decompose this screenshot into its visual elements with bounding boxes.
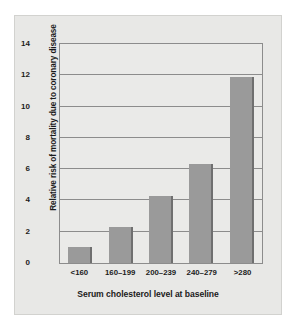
plot-area <box>59 43 263 264</box>
bar <box>230 77 254 263</box>
y-axis-tick-label: 8 <box>0 132 30 141</box>
bar-series <box>60 44 262 263</box>
x-axis-tick-label: <160 <box>59 268 99 277</box>
y-axis-tick-label: 10 <box>0 101 30 110</box>
y-axis-tick-label: 0 <box>0 258 30 267</box>
y-axis-tick-label: 6 <box>0 164 30 173</box>
x-axis-tick-label: 160–199 <box>100 268 140 277</box>
bar <box>189 164 213 263</box>
x-axis-title: Serum cholesterol level at baseline <box>15 289 281 299</box>
chart-figure: Relative risk of mortality due to corona… <box>14 15 282 315</box>
y-axis-tick-label: 4 <box>0 195 30 204</box>
x-axis-tick-label: >280 <box>223 268 263 277</box>
y-axis-title: Relative risk of mortality due to corona… <box>49 18 58 218</box>
x-axis-tick-label: 200–239 <box>141 268 181 277</box>
bar <box>109 227 133 263</box>
y-axis-tick-label: 12 <box>0 70 30 79</box>
x-axis-tick-label: 240–279 <box>182 268 222 277</box>
y-axis-tick-label: 14 <box>0 39 30 48</box>
bar <box>68 247 92 263</box>
x-axis-tick-labels: <160160–199200–239240–279>280 <box>59 268 263 277</box>
bar <box>149 196 173 263</box>
y-axis-tick-label: 2 <box>0 226 30 235</box>
